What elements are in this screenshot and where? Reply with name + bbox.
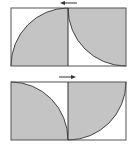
bottom-left-shaded-region <box>11 82 68 140</box>
arrow-right-icon <box>59 75 76 79</box>
bottom-panel <box>11 75 126 140</box>
bottom-right-shaded-region <box>68 82 126 140</box>
arrow-left-icon <box>60 1 77 5</box>
top-panel <box>11 1 126 66</box>
top-right-shaded-region <box>68 8 126 66</box>
top-left-quarter-circle <box>11 8 68 66</box>
diagram-canvas <box>0 0 136 152</box>
